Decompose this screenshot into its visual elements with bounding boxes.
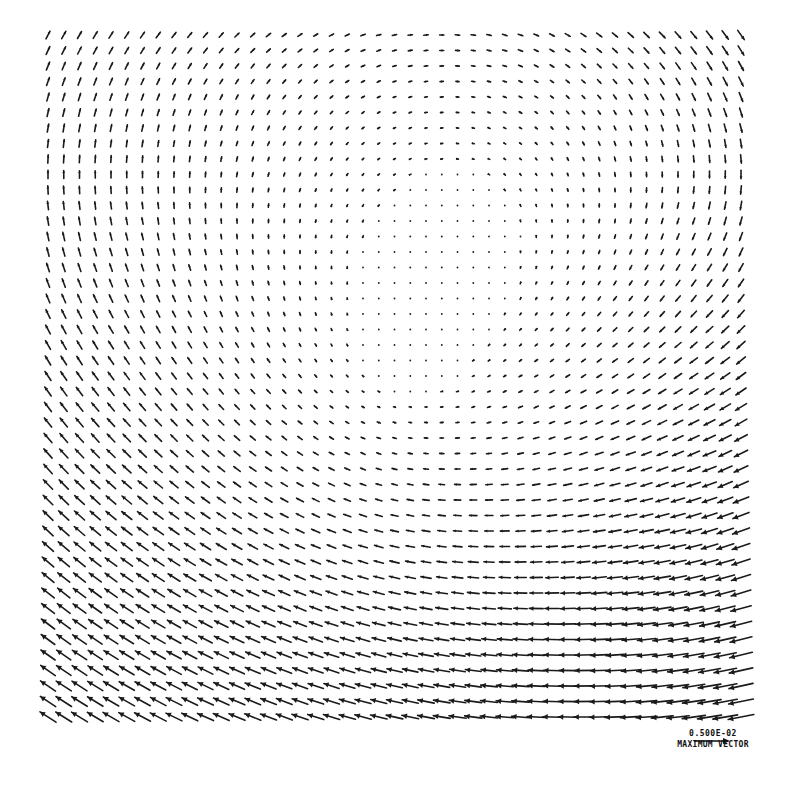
vector-arrow	[247, 605, 260, 611]
vector-arrow	[705, 404, 715, 410]
vector-arrow	[425, 421, 428, 424]
vector-arrow	[141, 187, 143, 193]
vector-arrow	[219, 48, 223, 52]
vector-arrow	[141, 280, 144, 287]
vector-arrow	[723, 248, 727, 255]
vector-arrow	[346, 282, 348, 284]
vector-arrow	[582, 313, 584, 316]
vector-arrow	[646, 126, 648, 131]
vector-arrow	[189, 172, 191, 177]
vector-arrow	[685, 576, 702, 582]
vector-arrow	[60, 418, 67, 427]
vector-arrow	[551, 158, 553, 161]
vector-arrow	[740, 124, 743, 133]
vector-arrow	[78, 248, 81, 256]
vector-arrow	[140, 357, 145, 364]
vector-arrow	[575, 637, 592, 643]
vector-arrow	[140, 342, 144, 349]
vector-arrow	[94, 140, 96, 147]
vector-arrow	[61, 325, 66, 333]
vector-arrow	[439, 483, 445, 486]
vector-arrow	[535, 80, 538, 82]
vector-arrow	[151, 697, 167, 705]
vector-arrow	[488, 236, 490, 238]
vector-arrow	[567, 111, 569, 114]
vector-arrow	[425, 189, 427, 191]
vector-arrow	[314, 158, 316, 161]
vector-arrow	[612, 33, 617, 37]
vector-arrow	[252, 281, 254, 285]
vector-arrow	[183, 620, 196, 627]
vector-arrow	[40, 712, 56, 722]
vector-arrow	[282, 49, 286, 52]
vector-arrow	[346, 422, 349, 424]
vector-arrow	[661, 250, 664, 255]
vector-arrow	[393, 143, 396, 145]
vector-arrow	[172, 311, 175, 317]
vector-arrow	[156, 342, 160, 348]
vector-arrow	[503, 96, 506, 98]
vector-arrow	[471, 49, 475, 51]
vector-arrow	[252, 142, 254, 146]
vector-arrow	[331, 329, 333, 332]
vector-arrow	[409, 421, 412, 423]
vector-arrow	[456, 65, 460, 67]
vector-arrow	[355, 683, 370, 689]
vector-arrow	[378, 236, 380, 238]
vector-arrow	[267, 343, 269, 347]
vector-arrow	[283, 219, 285, 222]
vector-arrow	[187, 404, 192, 410]
vector-arrow	[88, 666, 103, 675]
vector-arrow	[724, 186, 726, 194]
vector-arrow	[329, 34, 333, 36]
vector-arrow	[63, 124, 66, 132]
vector-arrow	[125, 202, 127, 209]
vector-arrow	[486, 483, 492, 485]
vector-arrow	[456, 437, 460, 439]
vector-arrow	[314, 421, 318, 424]
vector-arrow	[109, 310, 113, 317]
vector-arrow	[645, 141, 647, 146]
vector-arrow	[566, 158, 568, 161]
vector-arrow	[362, 81, 365, 83]
vector-arrow	[204, 312, 207, 317]
vector-arrow	[630, 203, 632, 207]
vector-arrow	[504, 111, 507, 113]
vector-arrow	[515, 576, 527, 580]
vector-arrow	[267, 64, 270, 68]
vector-arrow	[185, 528, 195, 535]
vector-arrow	[108, 403, 115, 411]
vector-arrow	[687, 513, 702, 519]
vector-arrow	[614, 297, 617, 301]
vector-arrow	[62, 202, 65, 210]
vector-arrow	[76, 403, 83, 411]
vector-arrow	[76, 434, 84, 443]
vector-arrow	[402, 714, 419, 719]
vector-arrow	[504, 312, 506, 315]
vector-arrow	[136, 620, 149, 628]
vector-arrow	[72, 666, 87, 676]
vector-arrow	[630, 235, 632, 239]
vector-arrow	[472, 298, 474, 300]
vector-arrow	[677, 125, 679, 131]
vector-arrow	[362, 251, 364, 253]
vector-arrow	[152, 605, 165, 613]
vector-arrow	[152, 620, 165, 628]
vector-arrow	[598, 250, 600, 253]
vector-arrow	[267, 126, 269, 130]
vector-arrow	[198, 682, 213, 690]
vector-arrow	[79, 124, 81, 131]
vector-arrow	[563, 514, 573, 517]
vector-arrow	[441, 127, 443, 129]
vector-arrow	[298, 406, 301, 409]
vector-arrow	[598, 188, 600, 191]
vector-arrow	[629, 95, 632, 99]
vector-arrow	[686, 544, 702, 550]
vector-arrow	[723, 264, 727, 271]
vector-arrow	[550, 406, 554, 408]
vector-arrow	[677, 187, 679, 193]
vector-arrow	[409, 143, 412, 145]
vector-arrow	[535, 375, 538, 377]
vector-arrow	[315, 328, 317, 331]
vector-arrow	[402, 698, 418, 703]
